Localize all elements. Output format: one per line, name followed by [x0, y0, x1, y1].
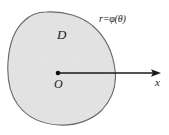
x-axis-label: x — [155, 77, 160, 88]
region-label-d: D — [57, 28, 66, 41]
polar-region-figure: D O x r=φ(θ) — [0, 0, 169, 135]
origin-point-dot — [56, 71, 61, 76]
origin-label-o: O — [54, 78, 63, 90]
figure-canvas — [0, 0, 169, 135]
curve-equation-label: r=φ(θ) — [99, 14, 126, 24]
